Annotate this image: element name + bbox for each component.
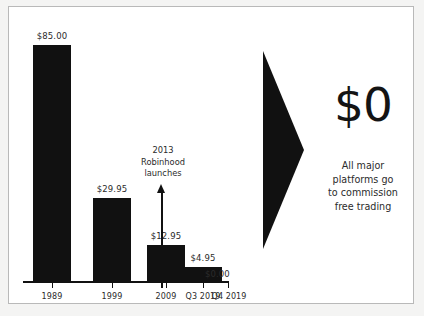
callout-caption: All major platforms go to commission fre… bbox=[309, 159, 417, 213]
x-axis-tick-1989 bbox=[52, 283, 53, 288]
bar-label-1999: $29.95 bbox=[83, 184, 141, 194]
bar-label-q3-2019: $4.95 bbox=[174, 253, 232, 263]
x-axis-label-1999: 1999 bbox=[91, 292, 133, 301]
annotation-arrow-line bbox=[161, 190, 163, 288]
infographic-card: $85.00 $29.95 $12.95 $4.95 $0.00 2013 Ro… bbox=[8, 6, 414, 304]
x-axis-tick-q3-2019 bbox=[203, 283, 204, 288]
callout-amount: $0 bbox=[311, 79, 415, 131]
bar-label-q4-2019: $0.00 bbox=[205, 269, 249, 279]
x-axis-line bbox=[23, 281, 229, 283]
x-axis-tick-1999 bbox=[112, 283, 113, 288]
annotation-robinhood-launches: 2013 Robinhood launches bbox=[113, 145, 213, 180]
bar-1989 bbox=[33, 45, 71, 281]
bar-label-1989: $85.00 bbox=[23, 31, 81, 41]
x-axis-label-1989: 1989 bbox=[31, 292, 73, 301]
right-arrow-icon bbox=[263, 51, 304, 249]
bar-2009 bbox=[147, 245, 185, 281]
bar-1999 bbox=[93, 198, 131, 281]
x-axis-tick-2009 bbox=[166, 283, 167, 288]
infographic-root: $85.00 $29.95 $12.95 $4.95 $0.00 2013 Ro… bbox=[0, 0, 424, 316]
x-axis-label-q4-2019: Q4 2019 bbox=[207, 292, 251, 301]
bar-chart-panel: $85.00 $29.95 $12.95 $4.95 $0.00 2013 Ro… bbox=[9, 7, 249, 305]
bar-label-2009: $12.95 bbox=[137, 231, 195, 241]
callout-panel: $0 All major platforms go to commission … bbox=[249, 7, 415, 305]
x-axis-tick-q4-2019 bbox=[228, 283, 229, 288]
plot-area: $85.00 $29.95 $12.95 $4.95 $0.00 2013 Ro… bbox=[9, 7, 249, 305]
